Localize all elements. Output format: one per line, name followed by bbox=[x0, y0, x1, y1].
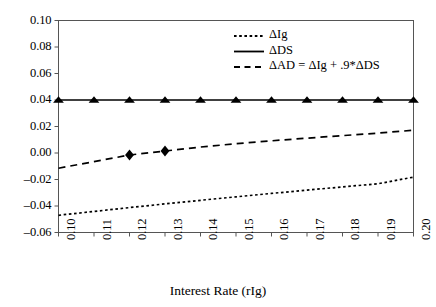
series-marker-diamond bbox=[161, 146, 170, 157]
chart-plot-svg bbox=[0, 0, 436, 307]
series-line-2 bbox=[59, 130, 414, 168]
y-axis-tick-label: 0.04 bbox=[30, 92, 51, 107]
x-axis-tick-label: 0.19 bbox=[384, 218, 399, 239]
legend-label: ΔAD = ΔIg + .9*ΔDS bbox=[269, 58, 380, 73]
y-axis-tick-label: 0.02 bbox=[30, 119, 51, 134]
y-axis-tick-label: –0.04 bbox=[24, 198, 52, 213]
x-axis-tick-label: 0.16 bbox=[277, 218, 292, 239]
y-axis-tick-label: –0.06 bbox=[24, 225, 52, 240]
x-axis-tick-label: 0.10 bbox=[64, 218, 79, 239]
y-axis-tick-label: 0.08 bbox=[30, 39, 51, 54]
y-axis-tick-label: –0.02 bbox=[24, 172, 52, 187]
series-marker-diamond bbox=[125, 150, 134, 161]
x-axis-tick-label: 0.18 bbox=[348, 218, 363, 239]
y-axis-tick-label: 0.10 bbox=[30, 13, 51, 28]
y-axis-tick-label: 0.00 bbox=[30, 145, 51, 160]
x-axis-tick-label: 0.17 bbox=[313, 218, 328, 239]
legend-label: ΔIg bbox=[269, 27, 287, 42]
chart-container: 0.100.080.060.040.020.00–0.02–0.04–0.060… bbox=[0, 0, 436, 307]
x-axis-tick-label: 0.20 bbox=[419, 218, 434, 239]
legend-label: ΔDS bbox=[269, 43, 293, 58]
y-axis-tick-label: 0.06 bbox=[30, 66, 51, 81]
x-axis-tick-label: 0.14 bbox=[206, 218, 221, 239]
x-axis-tick-label: 0.15 bbox=[242, 218, 257, 239]
x-axis-tick-label: 0.11 bbox=[100, 218, 115, 239]
x-axis-tick-label: 0.12 bbox=[135, 218, 150, 239]
x-axis-tick-label: 0.13 bbox=[171, 218, 186, 239]
x-axis-title: Interest Rate (rIg) bbox=[0, 283, 436, 299]
series-line-0 bbox=[59, 177, 414, 215]
